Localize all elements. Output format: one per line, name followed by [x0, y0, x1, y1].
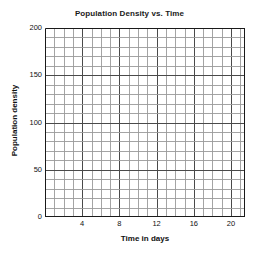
- x-axis-title: Time in days: [45, 234, 245, 243]
- x-tick-label: 16: [182, 219, 206, 228]
- x-tick-label: 8: [107, 219, 131, 228]
- x-tick-label: 20: [219, 219, 243, 228]
- x-tick-label: 12: [145, 219, 169, 228]
- plot-area: [45, 28, 245, 217]
- chart-container: Population Density vs. Time 050100150200…: [0, 0, 259, 256]
- y-axis-title: Population density: [10, 61, 19, 181]
- y-tick-label: 200: [14, 24, 42, 32]
- horizontal-gridlines: [45, 29, 245, 218]
- y-tick-label: 0: [14, 213, 42, 221]
- grid-svg: [45, 28, 245, 217]
- x-axis-ticks: 48121620: [45, 219, 259, 231]
- x-tick-label: 4: [70, 219, 94, 228]
